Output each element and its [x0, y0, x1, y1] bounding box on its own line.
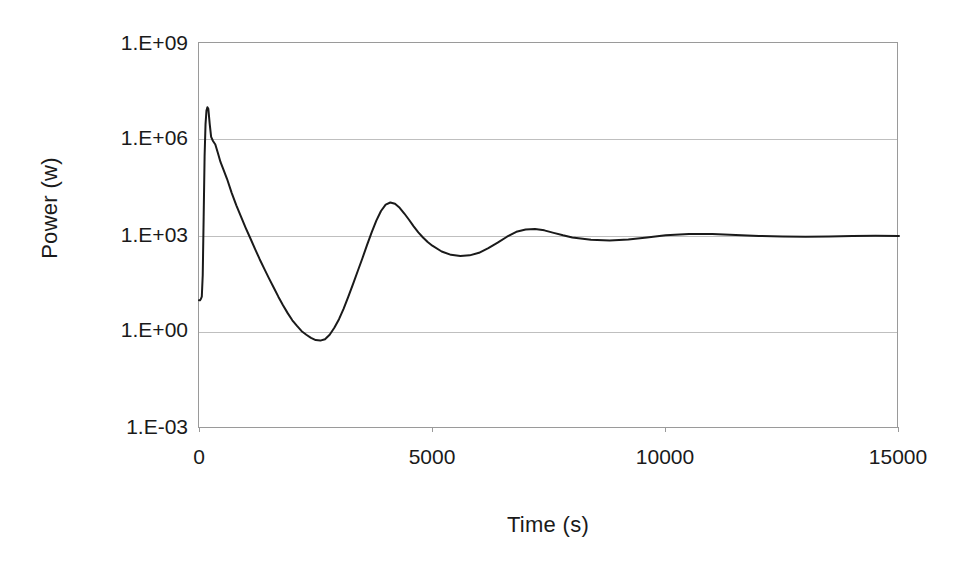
series-power-line	[199, 107, 899, 340]
data-curve-layer	[199, 43, 899, 429]
x-tick-label: 5000	[362, 445, 502, 469]
y-axis-tick-labels: 1.E+09 1.E+06 1.E+03 1.E+00 1.E-03	[64, 0, 188, 576]
y-axis-title: Power (w)	[37, 108, 63, 308]
y-tick-label: 1.E-03	[68, 416, 188, 437]
x-tick-label: 10000	[595, 445, 735, 469]
plot-area	[198, 42, 898, 428]
x-tick-label: 0	[129, 445, 269, 469]
y-tick-label: 1.E+00	[68, 319, 188, 340]
x-axis-title: Time (s)	[198, 512, 898, 538]
y-tick-label: 1.E+09	[68, 32, 188, 53]
x-axis-tick-labels: 0 5000 10000 15000	[0, 445, 979, 477]
y-tick-label: 1.E+06	[68, 127, 188, 148]
x-tick-label: 15000	[828, 445, 968, 469]
chart-container: Power (w) 1.E+09 1.E+06 1.E+03 1.E+00 1.…	[0, 0, 979, 576]
y-tick-label: 1.E+03	[68, 224, 188, 245]
